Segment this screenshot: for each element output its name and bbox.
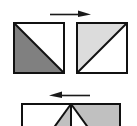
geometry-diagram — [0, 0, 137, 126]
figure-root — [0, 0, 137, 126]
arrow-left-icon — [49, 92, 90, 99]
square-source — [14, 23, 64, 73]
arrow-left-head — [49, 92, 62, 99]
fan-rectangle — [22, 104, 120, 126]
arrow-right-head — [78, 11, 91, 18]
arrow-right-icon — [50, 11, 91, 18]
square-target — [77, 23, 127, 73]
